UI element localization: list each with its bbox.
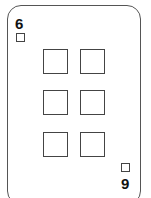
rank-bottom-right: 9 [121,177,129,191]
square-icon [80,132,105,157]
square-icon [121,163,130,172]
square-icon [80,90,105,115]
square-icon [43,49,68,74]
square-icon [16,33,25,42]
rank-top-left: 6 [15,17,23,31]
square-icon [80,49,105,74]
square-icon [43,90,68,115]
square-icon [43,132,68,157]
